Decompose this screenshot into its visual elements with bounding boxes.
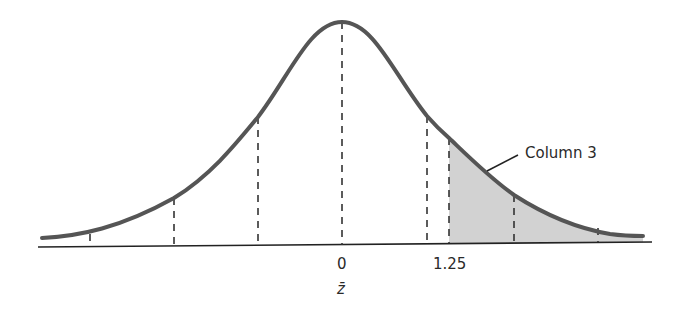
axis-variable-label: z̄: [337, 280, 345, 298]
annotation-column-3: Column 3: [525, 144, 597, 162]
annotation-leader-line: [487, 155, 518, 171]
x-axis: [38, 242, 652, 247]
tick-label-1-25: 1.25: [433, 255, 466, 273]
tick-label-mean: 0: [337, 255, 347, 273]
